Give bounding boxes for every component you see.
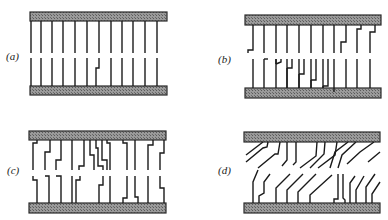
filament-strand bbox=[372, 182, 380, 203]
filament-strand bbox=[287, 59, 292, 68]
filament-strand bbox=[310, 175, 332, 203]
filament-strand bbox=[33, 176, 37, 203]
filament-strand bbox=[160, 176, 164, 203]
top-plate bbox=[244, 132, 380, 142]
filament-strand bbox=[299, 59, 304, 74]
filament-strand bbox=[123, 176, 127, 203]
filament-strand bbox=[248, 25, 253, 53]
filament-strand bbox=[293, 142, 296, 165]
filament-strand bbox=[99, 176, 103, 203]
filament-strand bbox=[258, 142, 280, 168]
panel-b bbox=[245, 15, 381, 98]
filament-strand bbox=[90, 140, 94, 170]
filament-strand bbox=[357, 25, 361, 53]
top-plate bbox=[245, 15, 381, 25]
filament-strand bbox=[45, 176, 49, 203]
filament-strand bbox=[45, 140, 50, 170]
top-plate bbox=[30, 12, 167, 21]
filament-strand bbox=[253, 170, 258, 203]
filament-strand bbox=[282, 142, 287, 166]
panel-a bbox=[30, 12, 167, 95]
filament-strand bbox=[370, 25, 375, 53]
bottom-plate bbox=[245, 88, 381, 98]
filament-strand bbox=[246, 142, 263, 155]
filament-strand bbox=[276, 59, 281, 64]
filament-strand bbox=[56, 140, 61, 170]
filament-strand bbox=[79, 140, 84, 170]
panel-label-c: (c) bbox=[7, 164, 19, 176]
filament-strand bbox=[135, 176, 138, 203]
filament-strand bbox=[311, 59, 316, 80]
filament-strand bbox=[368, 152, 380, 162]
filament-strand bbox=[338, 142, 356, 168]
panel-c bbox=[29, 131, 166, 213]
filament-strand bbox=[259, 174, 270, 203]
filament-strand bbox=[33, 140, 37, 170]
filament-strand bbox=[76, 176, 80, 203]
filament-strand bbox=[366, 174, 375, 203]
filament-strand bbox=[341, 25, 346, 53]
filament-strand bbox=[356, 176, 364, 203]
panel-d bbox=[244, 132, 380, 213]
filament-strand bbox=[160, 140, 164, 170]
bottom-plate bbox=[30, 86, 167, 95]
panel-label-b: (b) bbox=[218, 53, 231, 65]
filament-strand bbox=[343, 174, 345, 203]
panel-label-d: (d) bbox=[218, 164, 231, 176]
filament-strand bbox=[334, 174, 338, 203]
filament-strand bbox=[350, 176, 355, 203]
filament-strand bbox=[323, 59, 328, 86]
filament-strand bbox=[148, 140, 153, 170]
top-plate bbox=[29, 131, 166, 140]
filament-strand bbox=[56, 176, 61, 203]
filament-strand bbox=[298, 174, 316, 203]
filament-strand bbox=[96, 58, 99, 86]
filament-diagram bbox=[0, 0, 388, 220]
filament-strand bbox=[123, 140, 127, 170]
bottom-plate bbox=[29, 203, 166, 213]
bottom-plate bbox=[244, 203, 380, 213]
panel-label-a: (a) bbox=[6, 50, 19, 62]
